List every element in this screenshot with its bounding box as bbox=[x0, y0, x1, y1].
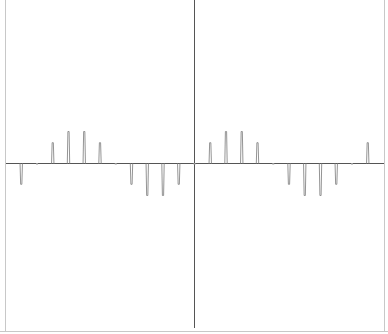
stem bbox=[52, 143, 54, 164]
stem bbox=[67, 132, 69, 164]
stem bbox=[99, 143, 101, 164]
stem bbox=[83, 132, 85, 164]
stem-plot bbox=[0, 0, 388, 334]
stem bbox=[20, 164, 22, 185]
stem bbox=[225, 132, 227, 164]
stem bbox=[304, 164, 306, 196]
stem bbox=[335, 164, 337, 185]
stem bbox=[209, 143, 211, 164]
stem bbox=[146, 164, 148, 196]
stem bbox=[162, 164, 164, 196]
stem-marker bbox=[194, 163, 196, 165]
stem-marker bbox=[36, 163, 38, 165]
stem bbox=[288, 164, 290, 185]
stem bbox=[241, 132, 243, 164]
stem bbox=[130, 164, 132, 185]
stem bbox=[367, 143, 369, 164]
stem bbox=[319, 164, 321, 196]
stem-marker bbox=[115, 163, 117, 165]
stem bbox=[178, 164, 180, 185]
stem bbox=[256, 143, 258, 164]
stem-marker bbox=[351, 163, 353, 165]
stem-marker bbox=[272, 163, 274, 165]
